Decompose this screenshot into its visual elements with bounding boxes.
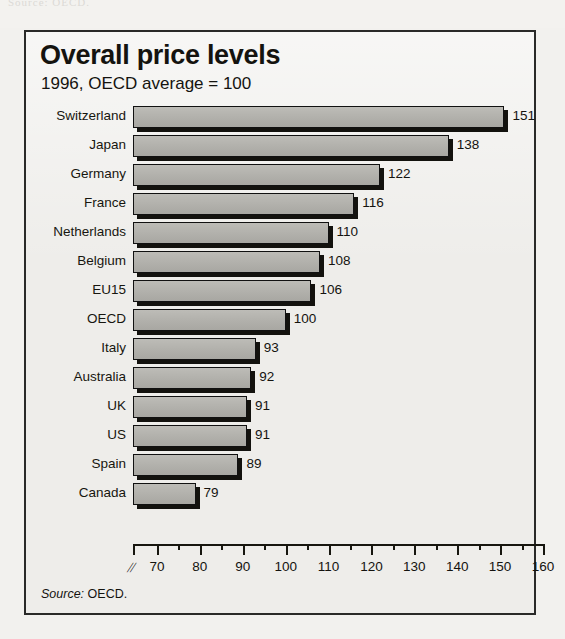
x-tick-major [200,544,202,555]
bar-value-label: 100 [294,311,317,326]
category-label: Switzerland [26,108,126,123]
bar-container [133,222,329,244]
bar-value-label: 108 [328,253,351,268]
bar [133,309,286,331]
x-tick-minor [479,544,481,550]
x-axis-origin-tick [133,544,135,555]
category-label: Australia [26,369,126,384]
bar-container [133,135,449,157]
bar-value-label: 93 [264,340,279,355]
x-tick-minor [522,544,524,550]
bar-value-label: 116 [362,195,384,210]
bar [133,164,380,186]
bar-row: Italy93 [26,336,538,365]
x-tick-major [157,544,159,555]
bar [133,280,311,302]
category-label: OECD [26,311,126,326]
scan-bleed-artifact: Source: OECD. [0,0,565,28]
bar-value-label: 106 [319,282,342,297]
bar [133,396,247,418]
bar-container [133,280,311,302]
x-tick-label: 160 [532,559,555,574]
x-tick-major [414,544,416,555]
x-tick-label: 110 [318,559,340,574]
bar-value-label: 89 [246,456,261,471]
bar-row: Spain89 [26,452,538,481]
source-note: Source: OECD. [41,587,127,601]
bar-value-label: 110 [337,224,359,239]
bar [133,251,320,273]
x-tick-label: 140 [446,559,469,574]
bar-value-label: 122 [388,166,411,181]
bar-value-label: 79 [204,485,219,500]
chart-subtitle: 1996, OECD average = 100 [41,74,251,94]
bar-row: Switzerland151 [26,104,538,133]
category-label: EU15 [26,282,126,297]
category-label: Belgium [26,253,126,268]
bar-container [133,367,251,389]
x-tick-minor [350,544,352,550]
bar-row: UK91 [26,394,538,423]
category-label: Spain [26,456,126,471]
bar-row: France116 [26,191,538,220]
x-tick-major [457,544,459,555]
bar-container [133,483,196,505]
x-tick-minor [221,544,223,550]
bar-container [133,164,380,186]
bar [133,193,354,215]
bar-row: Germany122 [26,162,538,191]
bar-container [133,193,354,215]
bar-row: US91 [26,423,538,452]
x-tick-label: 130 [403,559,426,574]
bar-value-label: 91 [255,398,270,413]
category-label: Italy [26,340,126,355]
x-tick-minor [436,544,438,550]
x-tick-major [286,544,288,555]
bar-row: Australia92 [26,365,538,394]
bar-row: Belgium108 [26,249,538,278]
x-tick-label: 80 [192,559,207,574]
category-label: Germany [26,166,126,181]
bar-container [133,251,320,273]
bar-container [133,396,247,418]
bar-row: EU15106 [26,278,538,307]
source-label: Source: [41,587,84,601]
bar [133,222,329,244]
bar [133,106,504,128]
x-tick-major [329,544,331,555]
x-tick-major [371,544,373,555]
bar [133,135,449,157]
bar-container [133,425,247,447]
chart-title: Overall price levels [40,40,280,71]
bar [133,338,256,360]
x-tick-minor [393,544,395,550]
x-tick-label: 150 [489,559,512,574]
x-tick-label: 70 [149,559,164,574]
bar-container [133,106,504,128]
category-label: UK [26,398,126,413]
bar-container [133,309,286,331]
category-label: Canada [26,485,126,500]
bleed-text: Source: OECD. [8,0,90,8]
bar-row: Netherlands110 [26,220,538,249]
bar [133,483,196,505]
bar-row: Canada79 [26,481,538,510]
bar-value-label: 92 [259,369,274,384]
category-label: US [26,427,126,442]
category-label: Japan [26,137,126,152]
x-tick-minor [178,544,180,550]
x-tick-major [243,544,245,555]
x-tick-minor [264,544,266,550]
bar-value-label: 138 [457,137,480,152]
bar [133,425,247,447]
bar [133,454,238,476]
source-value: OECD. [88,587,128,601]
category-label: France [26,195,126,210]
bar-row: Japan138 [26,133,538,162]
bar-container [133,454,238,476]
category-label: Netherlands [26,224,126,239]
bar-container [133,338,256,360]
bar-value-label: 91 [255,427,270,442]
x-tick-label: 100 [274,559,297,574]
x-tick-minor [307,544,309,550]
